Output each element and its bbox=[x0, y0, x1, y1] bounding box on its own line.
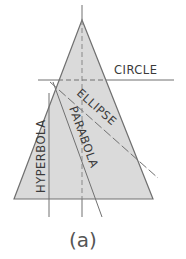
figure-caption: (a) bbox=[69, 228, 97, 252]
conic-sections-diagram: CIRCLE ELLIPSE PARABOLA HYPERBOLA (a) bbox=[0, 0, 186, 259]
label-circle: CIRCLE bbox=[114, 63, 158, 77]
label-hyperbola: HYPERBOLA bbox=[34, 119, 48, 193]
